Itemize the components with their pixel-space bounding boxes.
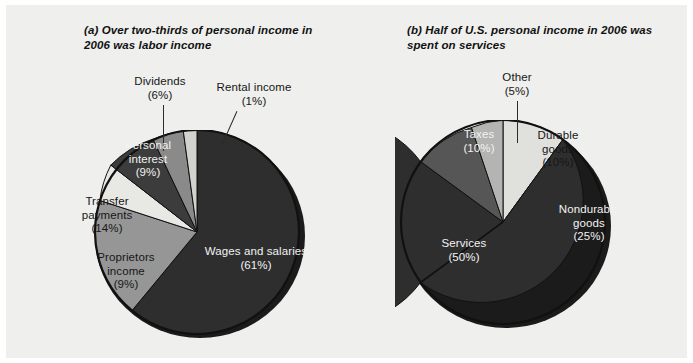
label-wages-and-salaries-name: Wages and salaries [176, 245, 336, 259]
label-proprietors-income-pct: (9%) [83, 278, 169, 292]
label-other-name: Other [489, 71, 545, 85]
label-other-pct: (5%) [489, 85, 545, 99]
label-personal-interest-name-1: Personal [114, 139, 182, 153]
leader-line-other [517, 101, 518, 143]
label-services-pct: (50%) [427, 251, 501, 265]
panel-a-title: (a) Over two-thirds of personal income i… [84, 23, 324, 53]
label-dividends-name: Dividends [118, 75, 202, 89]
figure-container: (a) Over two-thirds of personal income i… [6, 5, 687, 358]
label-transfer-payments: Transfer payments (14%) [68, 195, 146, 236]
label-proprietors-income: Proprietors income (9%) [83, 251, 169, 292]
label-nondurable-goods: Nondurable goods (25%) [543, 203, 635, 244]
label-personal-interest: Personal interest (9%) [114, 139, 182, 180]
label-services: Services (50%) [427, 237, 501, 264]
label-transfer-payments-name-2: payments [68, 209, 146, 223]
label-wages-and-salaries-pct: (61%) [176, 259, 336, 273]
panel-b-tag: (b) [407, 24, 422, 36]
label-durable-goods-pct: (10%) [523, 156, 593, 170]
label-taxes: Taxes (10%) [451, 128, 507, 155]
label-personal-interest-pct: (9%) [114, 166, 182, 180]
panel-b-title-text: Half of U.S. personal income in 2006 was… [407, 24, 652, 51]
label-wages-and-salaries: Wages and salaries (61%) [176, 245, 336, 272]
label-personal-interest-name-2: interest [114, 153, 182, 167]
label-durable-goods: Durable goods (10%) [523, 129, 593, 170]
label-taxes-name: Taxes [451, 128, 507, 142]
label-dividends: Dividends (6%) [118, 75, 202, 102]
label-nondurable-goods-name-2: goods [543, 217, 635, 231]
label-durable-goods-name-1: Durable [523, 129, 593, 143]
panel-b: (b) Half of U.S. personal income in 2006… [347, 5, 687, 358]
label-durable-goods-name-2: goods [523, 143, 593, 157]
label-proprietors-income-name-1: Proprietors [83, 251, 169, 265]
label-proprietors-income-name-2: income [83, 265, 169, 279]
panel-a: (a) Over two-thirds of personal income i… [6, 5, 346, 358]
label-rental-income-name: Rental income [202, 81, 306, 95]
label-dividends-pct: (6%) [118, 89, 202, 103]
label-other: Other (5%) [489, 71, 545, 98]
panel-a-title-text: Over two-thirds of personal income in 20… [84, 24, 312, 51]
label-nondurable-goods-pct: (25%) [543, 230, 635, 244]
label-nondurable-goods-name-1: Nondurable [543, 203, 635, 217]
label-rental-income-pct: (1%) [202, 95, 306, 109]
panel-b-title: (b) Half of U.S. personal income in 2006… [407, 23, 657, 53]
label-taxes-pct: (10%) [451, 142, 507, 156]
panel-a-tag: (a) [84, 24, 98, 36]
label-transfer-payments-pct: (14%) [68, 222, 146, 236]
label-services-name: Services [427, 237, 501, 251]
label-transfer-payments-name-1: Transfer [68, 195, 146, 209]
label-rental-income: Rental income (1%) [202, 81, 306, 108]
